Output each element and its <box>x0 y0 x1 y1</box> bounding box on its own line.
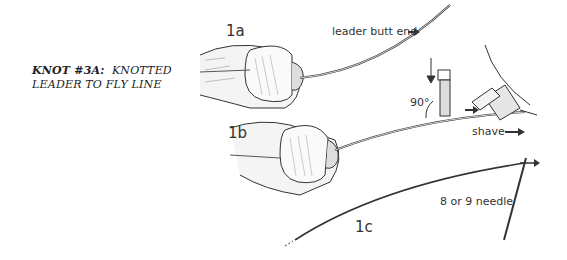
angle-label: 90° <box>410 96 430 109</box>
hand-1a-icon <box>200 45 303 108</box>
step-label-1c: 1c <box>355 218 373 236</box>
needle-label: 8 or 9 needle <box>440 195 513 208</box>
leader-line-1a <box>300 5 450 78</box>
step-label-1b: 1b <box>228 124 247 142</box>
clamp-tool-icon <box>427 58 450 116</box>
shave-label: shave <box>472 125 505 138</box>
leader-butt-end-label: leader butt end <box>332 25 417 38</box>
step-label-1a: 1a <box>226 22 245 40</box>
